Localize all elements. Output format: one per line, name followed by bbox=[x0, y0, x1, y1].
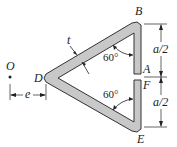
label-e-dim: e bbox=[25, 87, 31, 101]
arrowhead bbox=[113, 45, 117, 50]
arrowhead bbox=[159, 24, 163, 30]
label-a: A bbox=[142, 62, 151, 76]
arrowhead bbox=[40, 93, 46, 97]
label-b: B bbox=[135, 4, 143, 18]
triangular-section bbox=[44, 22, 141, 132]
arrowhead bbox=[159, 121, 163, 127]
arrowhead bbox=[159, 77, 163, 83]
label-e: E bbox=[136, 132, 145, 146]
section-wall bbox=[44, 22, 141, 132]
label-o: O bbox=[6, 59, 15, 73]
arrowhead bbox=[159, 71, 163, 77]
dimension-label-lower: a/2 bbox=[153, 95, 168, 109]
angle-label-bottom: 60° bbox=[103, 88, 118, 100]
arrowhead bbox=[129, 97, 133, 101]
arrowhead bbox=[73, 51, 77, 55]
thin-walled-triangular-section-diagram: B A F E D O t e 60° 60° a/2 a/2 bbox=[0, 0, 177, 147]
arrowhead bbox=[10, 93, 16, 97]
label-t: t bbox=[67, 33, 71, 47]
label-d: D bbox=[33, 71, 43, 85]
label-f: F bbox=[142, 78, 151, 92]
dimension-label-upper: a/2 bbox=[153, 42, 168, 56]
angle-label-top: 60° bbox=[103, 51, 118, 63]
arrowhead bbox=[113, 105, 117, 110]
point-o bbox=[9, 76, 12, 79]
arrowhead bbox=[129, 53, 133, 57]
